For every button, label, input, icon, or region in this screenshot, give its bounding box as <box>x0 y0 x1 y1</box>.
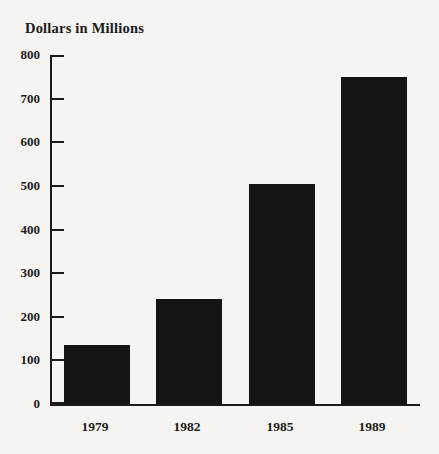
bar-1982 <box>156 299 222 404</box>
y-tick-label-600: 600 <box>21 135 41 149</box>
bar-chart: Dollars in Millions 01002003004005006007… <box>0 0 439 454</box>
chart-title: Dollars in Millions <box>25 20 144 37</box>
y-tick-200 <box>52 316 64 318</box>
y-tick-300 <box>52 272 64 274</box>
y-tick-600 <box>52 141 64 143</box>
bar-1979 <box>64 345 130 404</box>
y-axis-labels: 0100200300400500600700800 <box>0 55 45 404</box>
x-tick-label-1979: 1979 <box>82 419 109 435</box>
y-tick-800 <box>52 55 64 57</box>
x-axis-labels: 1979198219851989 <box>50 419 418 439</box>
y-tick-label-700: 700 <box>21 92 41 106</box>
plot-area <box>50 55 420 406</box>
y-tick-700 <box>52 98 64 100</box>
y-tick-label-800: 800 <box>21 48 41 62</box>
x-tick-label-1985: 1985 <box>267 419 294 435</box>
bar-1989 <box>341 77 407 404</box>
y-tick-500 <box>52 185 64 187</box>
y-tick-100 <box>52 359 64 361</box>
y-tick-label-400: 400 <box>21 223 41 237</box>
bar-1985 <box>249 184 315 404</box>
y-tick-label-300: 300 <box>21 266 41 280</box>
x-tick-label-1982: 1982 <box>174 419 201 435</box>
y-tick-label-100: 100 <box>21 353 41 367</box>
y-tick-0 <box>52 402 64 404</box>
y-tick-label-500: 500 <box>21 179 41 193</box>
y-tick-label-0: 0 <box>34 397 41 411</box>
x-tick-label-1989: 1989 <box>359 419 386 435</box>
y-tick-label-200: 200 <box>21 310 41 324</box>
y-tick-400 <box>52 229 64 231</box>
